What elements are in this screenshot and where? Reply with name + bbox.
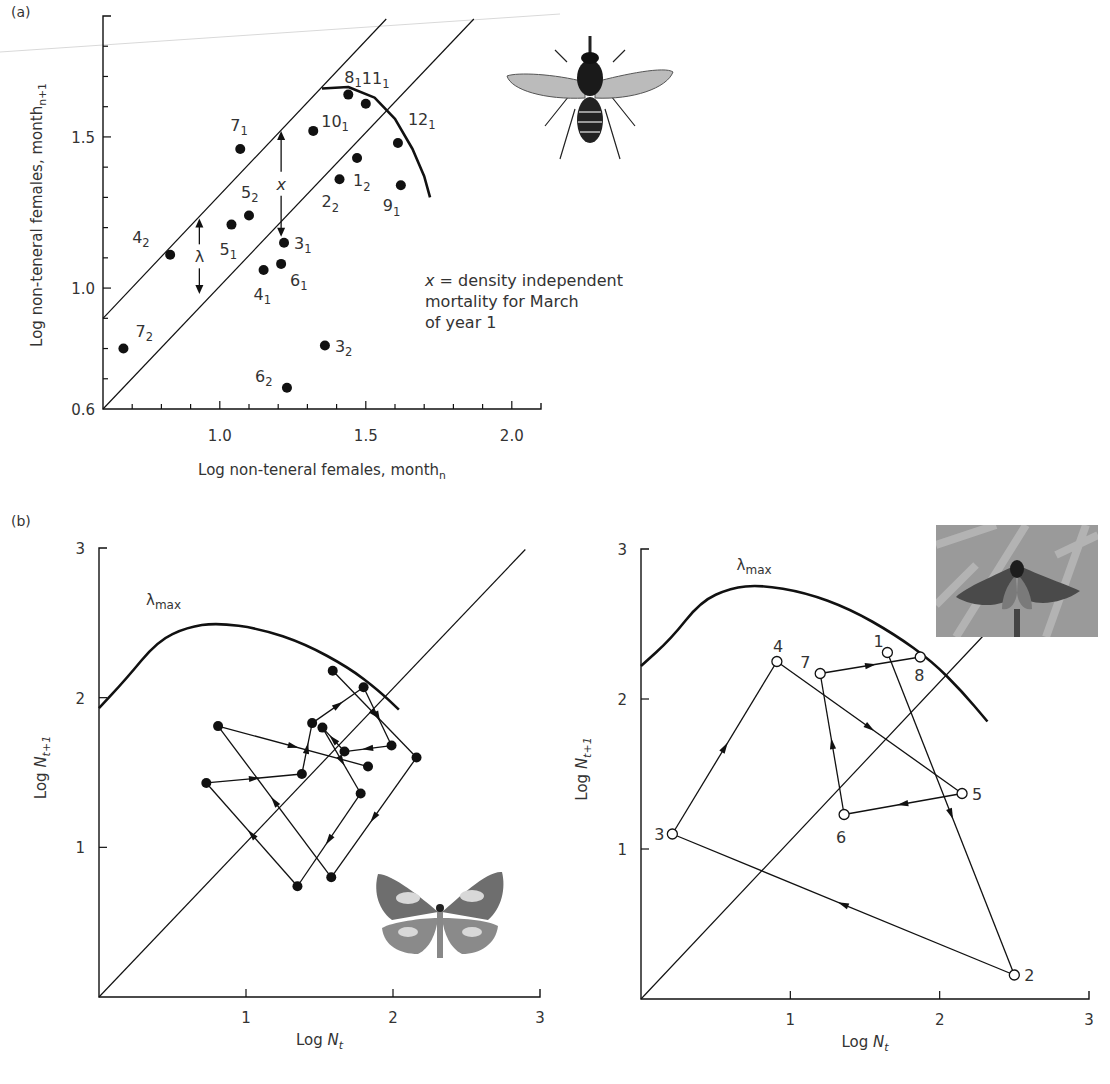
data-point-label: 4 <box>773 637 783 656</box>
data-point <box>320 341 330 351</box>
data-point <box>339 747 349 757</box>
data-point <box>1009 970 1019 980</box>
fly-illustration-icon <box>505 34 675 169</box>
x-tick-label: 2 <box>388 1009 398 1027</box>
data-point-label: 2 <box>1024 966 1034 985</box>
data-point-label: 41 <box>254 285 272 307</box>
y-tick-label: 1.0 <box>71 280 95 298</box>
moth-photo-icon <box>936 525 1098 637</box>
data-point <box>201 778 211 788</box>
arrow-label: x <box>275 175 286 194</box>
chart-a-plot-area: 1.01.52.00.61.01.5Log non-teneral female… <box>28 16 541 480</box>
y-axis-label: Log non-teneral females, monthn+1 <box>28 83 49 347</box>
direction-arrow-icon <box>326 834 335 845</box>
y-tick-label: 3 <box>617 541 627 559</box>
data-point-label: 91 <box>383 196 401 218</box>
x-axis-label: Log Nt <box>296 1031 344 1052</box>
data-point-label: 12 <box>353 171 371 193</box>
data-point <box>396 180 406 190</box>
lambda-max-curve <box>99 624 399 710</box>
y-axis-label: Log Nt+1 <box>573 737 594 800</box>
direction-arrow-icon <box>332 702 343 711</box>
data-point-label: 42 <box>132 228 150 250</box>
arrow-down-icon <box>195 285 203 294</box>
data-point <box>308 126 318 136</box>
data-point <box>882 648 892 658</box>
data-point <box>356 788 366 798</box>
x-tick-label: 1.5 <box>354 427 378 445</box>
data-point-label: 6 <box>836 828 846 847</box>
figure: (a) (b) 1.01.52.00.61.01.5Log non-tenera… <box>0 0 1110 1084</box>
data-point <box>276 259 286 269</box>
data-point <box>361 99 371 109</box>
data-point-label: 62 <box>255 367 273 389</box>
data-point <box>957 789 967 799</box>
data-point <box>915 652 925 662</box>
data-point <box>259 265 269 275</box>
data-point <box>772 657 782 667</box>
x-tick-label: 1 <box>786 1011 796 1029</box>
lambda-max-label: λmax <box>146 591 181 612</box>
data-point <box>815 669 825 679</box>
data-point-label: 32 <box>335 337 353 359</box>
y-tick-label: 1 <box>617 841 627 859</box>
y-tick-label: 3 <box>75 540 85 558</box>
y-axis-label: Log Nt+1 <box>32 736 53 799</box>
data-point-label: 111 <box>362 69 390 91</box>
data-point <box>235 144 245 154</box>
direction-arrow-icon <box>719 743 727 754</box>
data-point <box>244 211 254 221</box>
data-point-label: 52 <box>241 183 259 205</box>
data-point <box>359 682 369 692</box>
data-point <box>667 829 677 839</box>
data-point-label: 8 <box>914 666 924 685</box>
direction-arrow-icon <box>362 745 373 751</box>
x-tick-label: 1 <box>241 1009 251 1027</box>
data-point <box>317 723 327 733</box>
annotation-line-3: of year 1 <box>425 313 496 332</box>
data-point <box>352 153 362 163</box>
data-point-label: 71 <box>230 116 248 138</box>
y-tick-label: 2 <box>75 690 85 708</box>
x-tick-label: 2 <box>935 1011 945 1029</box>
data-point-label: 31 <box>294 234 312 256</box>
y-tick-label: 1.5 <box>71 129 95 147</box>
data-point <box>393 138 403 148</box>
upper-bound-line <box>103 19 386 318</box>
data-point <box>335 174 345 184</box>
direction-arrow-icon <box>838 902 849 909</box>
chart-a-density-plot: 1.01.52.00.61.01.5Log non-teneral female… <box>0 0 560 480</box>
data-point <box>118 344 128 354</box>
data-point <box>328 666 338 676</box>
annotation-line-2: mortality for March <box>425 292 579 311</box>
data-point-label: 7 <box>800 653 810 672</box>
data-point <box>387 741 397 751</box>
svg-text:Log Nt+1: Log Nt+1 <box>573 737 594 800</box>
data-point-label: 3 <box>654 825 664 844</box>
data-point-label: 121 <box>408 110 436 132</box>
data-point <box>343 90 353 100</box>
chart-b-left-plot-area: 123123Log NtLog Nt+1λmax <box>32 540 545 1052</box>
data-point <box>213 721 223 731</box>
data-point-label: 1 <box>873 632 883 651</box>
svg-text:Log Nt+1: Log Nt+1 <box>32 736 53 799</box>
y-tick-label: 2 <box>617 691 627 709</box>
data-point-label: 51 <box>219 240 237 262</box>
axes <box>103 16 541 409</box>
data-point-label: 61 <box>290 271 308 293</box>
svg-text:Log non-teneral females, month: Log non-teneral females, monthn+1 <box>28 83 49 347</box>
lambda-max-label: λmax <box>737 556 772 577</box>
arrow-label: λ <box>195 247 204 266</box>
data-point-label: 72 <box>135 322 153 344</box>
data-point <box>307 718 317 728</box>
data-point-label: 101 <box>321 112 349 134</box>
y-tick-label: 1 <box>75 839 85 857</box>
direction-arrow-icon <box>863 722 874 731</box>
data-point <box>282 383 292 393</box>
replacement-line <box>641 635 984 1000</box>
data-point <box>165 250 175 260</box>
direction-arrow-icon <box>946 808 953 820</box>
data-point <box>292 881 302 891</box>
x-axis-label: Log Nt <box>841 1033 889 1054</box>
data-point-label: 22 <box>322 192 340 214</box>
